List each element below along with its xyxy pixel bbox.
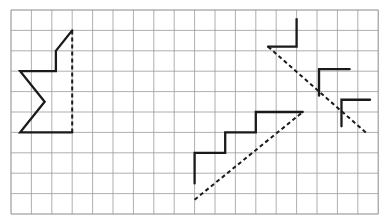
- grid-diagram: [0, 0, 387, 215]
- worksheet-canvas: [0, 0, 387, 215]
